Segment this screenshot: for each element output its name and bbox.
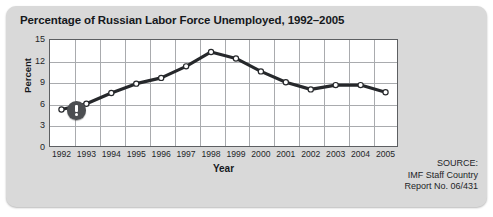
data-point-marker [134, 81, 139, 86]
page-title: Percentage of Russian Labor Force Unempl… [20, 14, 344, 26]
exclamation-badge-icon [67, 101, 86, 120]
x-axis-ticks: 1992199319941995199619971998199920002001… [49, 149, 398, 163]
data-point-marker [109, 90, 114, 95]
data-point-marker [333, 82, 338, 87]
data-point-marker [308, 87, 313, 92]
data-point-marker [258, 69, 263, 74]
data-point-marker [159, 75, 164, 80]
data-point-marker [59, 107, 64, 112]
source-line-1: SOURCE: [353, 158, 478, 170]
figure-panel: Percentage of Russian Labor Force Unempl… [6, 6, 487, 207]
data-point-marker [383, 90, 388, 95]
data-point-marker [358, 82, 363, 87]
series-line [61, 52, 385, 110]
series-markers [59, 49, 388, 112]
y-tick-label: 0 [25, 142, 45, 152]
data-series [49, 39, 398, 147]
badge-stem [75, 105, 78, 112]
data-point-marker [208, 49, 213, 54]
source-line-2: IMF Staff Country [353, 170, 478, 182]
source-line-3: Report No. 06/431 [353, 181, 478, 193]
data-point-marker [283, 80, 288, 85]
source-note: SOURCE: IMF Staff Country Report No. 06/… [353, 158, 478, 193]
badge-dot [75, 113, 78, 116]
y-tick-label: 3 [25, 120, 45, 130]
y-axis-label: Percent [22, 41, 33, 111]
x-axis-label: Year [49, 163, 398, 174]
data-point-marker [233, 56, 238, 61]
data-point-marker [184, 64, 189, 69]
